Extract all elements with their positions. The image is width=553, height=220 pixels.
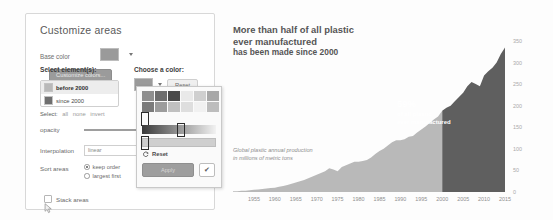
list-item[interactable]: before 2000	[41, 81, 118, 94]
y-axis-tick-label: 300	[513, 60, 522, 66]
popover-reset-row[interactable]: Reset	[143, 151, 168, 157]
x-axis: 1955196019651970197519801985199019952000…	[233, 194, 505, 206]
interpolation-label: Interpolation	[40, 147, 84, 154]
x-axis-tick-label: 1960	[269, 196, 281, 202]
color-swatch[interactable]	[168, 102, 180, 112]
plastic-production-chart: More than half of all plastic ever manuf…	[225, 10, 543, 210]
chart-annotation: 59% of all plastic ever manufactured	[397, 100, 451, 126]
base-color-label: Base color	[40, 53, 70, 60]
opacity-label: opacity	[40, 126, 84, 133]
y-axis-tick-label: 50	[513, 167, 519, 173]
value-handle[interactable]	[141, 136, 149, 150]
select-shortcuts-label: Select:	[40, 111, 58, 117]
x-axis-tick-label: 2000	[436, 196, 448, 202]
radio-icon	[84, 173, 90, 179]
mouse-cursor-icon	[44, 203, 53, 214]
app-screenshot: Customize areas Base color Customize col…	[0, 0, 553, 220]
confirm-check-button[interactable]: ✔	[199, 163, 215, 177]
interpolation-select[interactable]: linear	[84, 145, 138, 156]
list-item-label: since 2000	[56, 98, 84, 104]
radio-largest-first[interactable]: largest first	[84, 173, 121, 179]
color-swatch[interactable]	[194, 102, 206, 112]
x-axis-tick-label: 1995	[415, 196, 427, 202]
radio-keep-order[interactable]: keep order	[84, 164, 121, 170]
color-swatch[interactable]	[207, 91, 219, 101]
select-shortcuts-row: Select: all none invert	[40, 111, 105, 117]
color-swatch[interactable]	[142, 102, 154, 112]
color-swatch[interactable]	[207, 102, 219, 112]
sort-areas-label: Sort areas	[40, 164, 84, 172]
element-color-chip	[44, 83, 53, 92]
color-swatch[interactable]	[181, 91, 193, 101]
popover-buttons: Apply ✔	[142, 163, 215, 177]
x-axis-tick-label: 1980	[353, 196, 365, 202]
base-color-row: Base color Customize colors...	[40, 45, 208, 59]
x-axis-tick-label: 2015	[499, 196, 511, 202]
select-elements-label: Select element(s):	[40, 66, 96, 73]
y-axis-tick-label: 200	[513, 103, 522, 109]
color-swatch[interactable]	[155, 91, 167, 101]
annotation-percent: 59%	[397, 100, 451, 108]
y-axis-tick-label: 250	[513, 81, 522, 87]
sort-radio-group: keep order largest first	[84, 164, 121, 182]
y-axis-tick-label: 350	[513, 38, 522, 44]
x-axis-tick-label: 2010	[478, 196, 490, 202]
annotation-line1: of all plastic	[397, 110, 451, 118]
x-axis-tick-label: 1965	[290, 196, 302, 202]
page-title: Customize areas	[40, 24, 122, 36]
color-swatch[interactable]	[142, 91, 154, 101]
radio-label: keep order	[93, 164, 121, 170]
color-swatch[interactable]	[155, 102, 167, 112]
x-axis-tick-label: 1975	[332, 196, 344, 202]
select-invert-link[interactable]: invert	[90, 111, 104, 117]
apply-button[interactable]: Apply	[142, 163, 194, 177]
x-axis-tick-label: 1955	[248, 196, 260, 202]
select-all-link[interactable]: all	[62, 111, 68, 117]
checkbox-icon[interactable]	[44, 195, 52, 203]
color-swatch-grid[interactable]	[142, 91, 219, 112]
x-axis-tick-label: 1985	[373, 196, 385, 202]
y-axis: 050100150200250300350	[507, 28, 541, 192]
base-color-swatch[interactable]	[100, 48, 119, 61]
chevron-down-icon[interactable]	[129, 53, 133, 56]
x-axis-tick-label: 1990	[394, 196, 406, 202]
y-axis-tick-label: 0	[513, 189, 516, 195]
element-color-chip	[44, 96, 53, 105]
selected-swatch-outline	[141, 112, 149, 126]
color-swatch[interactable]	[194, 91, 206, 101]
color-swatch[interactable]	[168, 91, 180, 101]
x-axis-tick-label: 2005	[457, 196, 469, 202]
color-value-strip[interactable]	[142, 138, 216, 147]
radio-icon	[84, 164, 90, 170]
list-item-label: before 2000	[56, 85, 88, 91]
annotation-line2: ever manufactured	[397, 118, 451, 126]
y-axis-tick-label: 100	[513, 146, 522, 152]
x-axis-tick-label: 1970	[311, 196, 323, 202]
color-swatch[interactable]	[181, 102, 193, 112]
y-axis-tick-label: 150	[513, 124, 522, 130]
stack-areas-label: Stack areas	[56, 196, 89, 203]
area-chart-plot	[233, 28, 505, 192]
choose-color-label: Choose a color:	[134, 66, 184, 73]
reset-icon	[143, 151, 149, 157]
element-listbox[interactable]: before 2000 since 2000	[40, 80, 119, 107]
list-item[interactable]: since 2000	[41, 94, 118, 107]
radio-label: largest first	[93, 173, 121, 179]
chart-area-series	[442, 47, 505, 192]
gradient-handle[interactable]	[177, 123, 185, 137]
stack-areas-checkbox-row[interactable]: Stack areas	[44, 195, 89, 203]
color-picker-popover[interactable]: Reset Apply ✔	[136, 86, 222, 188]
select-none-link[interactable]: none	[73, 111, 86, 117]
popover-reset-label: Reset	[152, 151, 168, 157]
